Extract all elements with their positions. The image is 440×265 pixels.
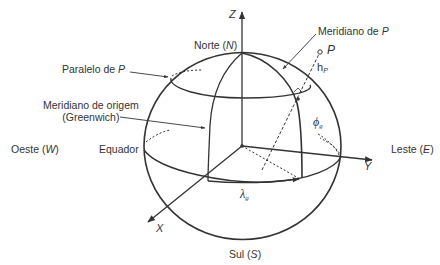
y-axis-label: Y: [364, 161, 371, 172]
point-p-label: P: [327, 44, 335, 56]
east-word: Leste: [391, 143, 417, 155]
north-label: Norte (N): [194, 40, 237, 51]
height-label: hP: [317, 62, 328, 74]
parallel-of-p-prefix: Paralelo de: [62, 63, 118, 75]
origin-meridian-line1: Meridiano de origem: [43, 99, 139, 111]
greenwich-meridian: [208, 53, 242, 181]
leader-parallel-of-p: [130, 72, 168, 77]
z-axis-label: Z: [229, 9, 236, 20]
surface-point: [296, 97, 300, 101]
north-abbr: N: [226, 39, 234, 51]
origin-meridian-line2: (Greenwich): [43, 111, 139, 123]
longitude-sub: g: [245, 194, 249, 202]
south-word: Sul: [229, 248, 244, 260]
west-word: Oeste: [11, 143, 39, 155]
x-axis-label: X: [156, 223, 163, 234]
north-word: Norte: [194, 39, 220, 51]
normal-line: [262, 52, 320, 170]
point-p: [318, 50, 322, 54]
latitude-label: ϕg: [313, 116, 323, 130]
parallel-of-p-var: P: [118, 63, 125, 75]
latitude-arc: [318, 134, 339, 155]
parallel-of-p-label: Paralelo de P: [62, 64, 125, 75]
y-axis: [242, 146, 372, 160]
west-abbr: W: [45, 143, 55, 155]
meridian-of-p-label: Meridiano de P: [318, 26, 389, 37]
equator-front: [144, 150, 341, 182]
origin-meridian-label: Meridiano de origem (Greenwich): [43, 99, 139, 123]
east-label: Leste (E): [391, 144, 434, 155]
meridian-of-p: [242, 53, 302, 178]
equator-label: Equador: [99, 144, 139, 155]
parallel-of-p-back: [172, 70, 203, 76]
longitude-label: λg: [240, 188, 249, 202]
point-p-text: P: [327, 43, 335, 57]
meridian-of-p-var: P: [382, 25, 389, 37]
south-abbr: S: [251, 248, 258, 260]
equator-back: [146, 130, 170, 142]
leader-meridian-of-p: [283, 34, 316, 69]
meridian-of-p-prefix: Meridiano de: [318, 25, 382, 37]
latitude-sub: g: [319, 122, 323, 130]
x-axis: [148, 146, 242, 222]
south-label: Sul (S): [229, 249, 261, 260]
west-label: Oeste (W): [11, 144, 59, 155]
east-abbr: E: [423, 143, 430, 155]
height-sub: P: [323, 67, 328, 74]
